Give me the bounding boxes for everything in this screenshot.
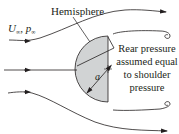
freestream-label: U∞, p∞ (8, 22, 36, 35)
hemisphere-label: Hemisphere (51, 5, 104, 17)
freestream-pressure-sub: ∞ (31, 29, 35, 35)
rear-pressure-line2: assumed equal (116, 56, 178, 67)
rear-pressure-line4: pressure (130, 82, 165, 93)
rear-pressure-line3: to shoulder (124, 69, 171, 80)
hemisphere-leader-line (73, 17, 90, 42)
upper-recirculation-curl (113, 31, 170, 39)
rear-pressure-line1: Rear pressure (118, 43, 176, 54)
hemisphere-flow-diagram: Hemisphere U∞, p∞ Rear pressure assumed … (0, 0, 179, 134)
lower-streamline (8, 92, 167, 131)
hemisphere-body (75, 36, 108, 102)
radius-label: a (95, 71, 100, 82)
lower-recirculation-curl (113, 102, 170, 111)
